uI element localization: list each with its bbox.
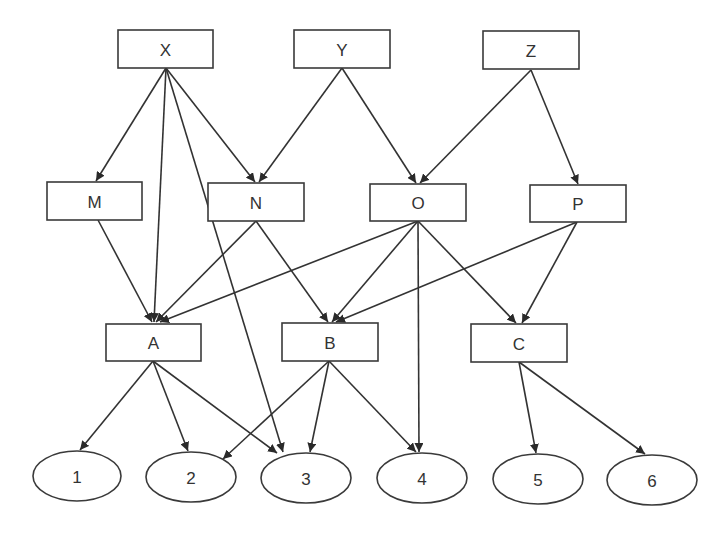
node-label: 5 (533, 471, 542, 490)
edge-o-to-c (418, 221, 516, 323)
node-b: B (282, 323, 378, 361)
edge-c-to-6 (519, 362, 645, 454)
node-label: 4 (417, 470, 426, 489)
edge-x-to-n (166, 68, 255, 182)
node-label: 1 (72, 468, 81, 487)
node-label: B (324, 334, 335, 353)
dependency-graph: XYZMNOPABC123456 (0, 0, 718, 536)
edge-m-to-a (98, 220, 152, 322)
edges (80, 68, 645, 459)
node-3: 3 (261, 453, 351, 503)
edge-c-to-5 (519, 362, 536, 453)
edge-x-to-3 (166, 68, 283, 452)
node-label: M (87, 193, 101, 212)
node-label: X (160, 41, 171, 60)
node-5: 5 (493, 454, 583, 504)
node-label: 2 (186, 469, 195, 488)
node-label: A (148, 334, 160, 353)
node-label: 6 (647, 472, 656, 491)
edge-n-to-a (156, 221, 256, 322)
node-z: Z (483, 31, 579, 69)
edge-b-to-2 (223, 361, 329, 459)
edge-p-to-c (522, 222, 577, 323)
edge-z-to-p (531, 70, 578, 184)
node-n: N (208, 183, 304, 221)
node-1: 1 (33, 451, 121, 501)
edge-x-to-a (154, 68, 166, 322)
node-label: 3 (301, 470, 310, 489)
node-label: Z (526, 42, 536, 61)
edge-n-to-b (256, 221, 328, 322)
node-label: C (513, 335, 525, 354)
node-m: M (47, 182, 142, 220)
node-x: X (118, 30, 213, 68)
edge-y-to-n (259, 68, 342, 182)
edge-o-to-a (160, 221, 418, 322)
node-p: P (530, 185, 626, 222)
node-label: N (250, 194, 262, 213)
edge-b-to-3 (310, 361, 329, 452)
edge-o-to-b (332, 221, 418, 322)
node-label: O (411, 194, 424, 213)
node-2: 2 (146, 452, 236, 502)
edge-z-to-o (420, 70, 531, 183)
edge-a-to-1 (80, 361, 153, 450)
edge-y-to-o (342, 68, 416, 183)
nodes: XYZMNOPABC123456 (33, 30, 697, 505)
node-label: P (572, 195, 583, 214)
edge-p-to-b (336, 222, 577, 322)
node-y: Y (294, 30, 390, 68)
edge-b-to-4 (329, 361, 416, 452)
node-c: C (471, 324, 567, 362)
node-4: 4 (377, 453, 467, 503)
edge-o-to-4 (418, 221, 419, 452)
node-o: O (370, 184, 466, 221)
node-6: 6 (607, 455, 697, 505)
node-a: A (106, 324, 201, 361)
node-label: Y (336, 41, 347, 60)
edge-x-to-m (96, 68, 166, 181)
